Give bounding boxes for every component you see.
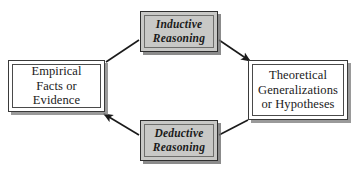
node-deductive-reasoning-label: Deductive Reasoning [151,127,207,154]
node-inner-border: Theoretical Generalizations or Hypothese… [252,64,344,116]
node-frame: Empirical Facts or Evidence [8,60,105,112]
node-empirical-facts: Empirical Facts or Evidence [8,60,105,112]
node-frame: Deductive Reasoning [140,120,218,161]
node-inductive-reasoning: Inductive Reasoning [140,11,218,52]
node-theoretical-generalizations-label: Theoretical Generalizations or Hypothese… [256,68,340,112]
node-inner-border: Empirical Facts or Evidence [12,64,101,108]
node-inner-border: Deductive Reasoning [144,124,214,157]
node-theoretical-generalizations: Theoretical Generalizations or Hypothese… [248,60,348,120]
connector-empirical-to-inductive [106,40,139,62]
node-frame: Inductive Reasoning [140,11,218,52]
node-inductive-reasoning-label: Inductive Reasoning [151,18,207,45]
connector-inductive-to-theoretical [219,40,250,61]
node-deductive-reasoning: Deductive Reasoning [140,120,218,161]
reasoning-cycle-diagram: Empirical Facts or Evidence Inductive Re… [0,0,355,170]
connector-deductive-to-empirical [104,114,139,135]
node-empirical-facts-label: Empirical Facts or Evidence [29,64,83,108]
node-frame: Theoretical Generalizations or Hypothese… [248,60,348,120]
connector-theoretical-to-deductive [219,120,248,135]
node-inner-border: Inductive Reasoning [144,15,214,48]
